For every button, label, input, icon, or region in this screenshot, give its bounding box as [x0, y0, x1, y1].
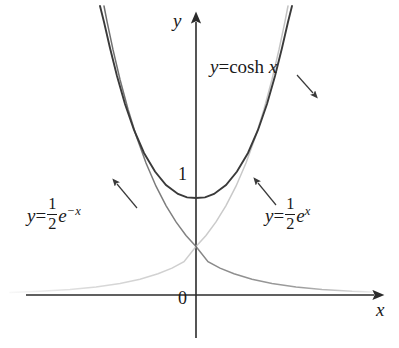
pointer-half-e-neg-x	[117, 184, 137, 208]
label-eneg-equals: =	[35, 205, 46, 226]
label-cosh-fn: cosh	[229, 56, 264, 77]
label-eneg-base: e	[58, 205, 66, 226]
label-ex-base: e	[296, 205, 304, 226]
label-cosh-equation: y=cosh x	[210, 57, 277, 76]
fraction-numerator: 1	[285, 196, 295, 213]
fraction-denominator: 2	[285, 216, 295, 233]
origin-label: 0	[178, 289, 187, 307]
label-ex-exponent: x	[305, 204, 311, 218]
label-ex-equals: =	[273, 205, 284, 226]
pointer-cosh	[297, 75, 313, 93]
label-half-e-x-equation: y=12ex	[265, 196, 310, 232]
curve-half-e-neg-x	[104, 6, 372, 292]
curve-half-e-x	[10, 6, 288, 293]
label-cosh-arg: x	[269, 56, 277, 77]
fraction-one-half: 12	[47, 196, 57, 232]
y-axis-label: y	[173, 11, 181, 30]
fraction-denominator: 2	[47, 216, 57, 233]
plot-canvas	[0, 0, 399, 348]
y-tick-label-1: 1	[178, 165, 187, 183]
label-eneg-exponent: −x	[67, 204, 81, 218]
label-cosh-equals: =	[218, 56, 229, 77]
x-axis-label: x	[376, 300, 384, 319]
hyperbolic-cosine-figure: y=cosh x y=12e−x y=12ex y x 1 0	[0, 0, 399, 348]
fraction-one-half: 12	[285, 196, 295, 232]
fraction-numerator: 1	[47, 196, 57, 213]
label-half-e-neg-x-equation: y=12e−x	[27, 196, 81, 232]
